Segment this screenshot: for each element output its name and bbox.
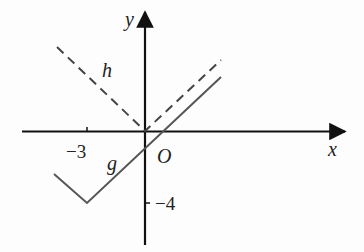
- x-axis-label: x: [327, 138, 337, 160]
- y-tick-label-minus-4: −4: [155, 193, 176, 214]
- origin-label: O: [157, 145, 171, 167]
- y-axis-label: y: [123, 8, 134, 31]
- function-g-label: g: [107, 152, 117, 175]
- function-g-curve: [54, 77, 221, 203]
- function-graph-diagram: y x O −3 −4 h g: [0, 0, 364, 252]
- x-tick-label-minus-3: −3: [66, 141, 86, 162]
- graph-canvas: y x O −3 −4 h g: [0, 0, 364, 252]
- function-h-label: h: [102, 59, 112, 81]
- function-h-curve: [57, 47, 221, 131]
